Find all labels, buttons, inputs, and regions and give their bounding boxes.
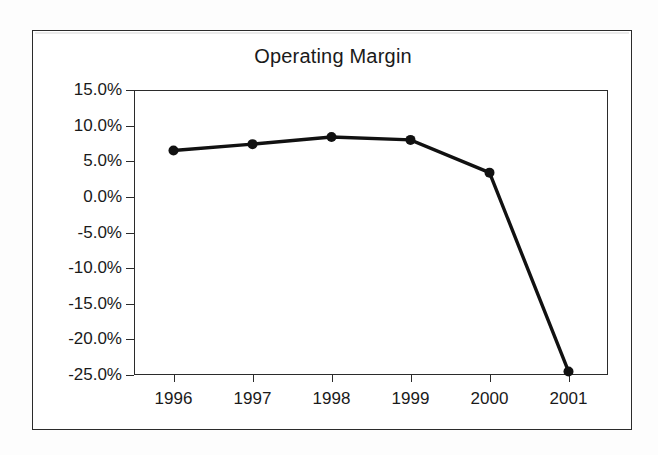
operating-margin-markers: 1996: 6.5%1997: 7.4%1998: 8.4%1999: 8.0%… [169, 132, 574, 376]
data-point-marker: 2001: -24.5% [564, 366, 574, 376]
y-axis-tick [126, 268, 134, 269]
y-axis-tick-label: 15.0% [27, 80, 122, 100]
data-point-marker: 1996: 6.5% [169, 146, 179, 156]
operating-margin-line [174, 137, 569, 371]
data-point-marker: 2000: 3.4% [485, 168, 495, 178]
y-axis-tick-label: -10.0% [27, 258, 122, 278]
x-axis-tick-label: 1999 [371, 389, 451, 409]
y-axis-tick [126, 126, 134, 127]
y-axis-tick-label: -20.0% [27, 329, 122, 349]
plot-area: 15.0%10.0%5.0%0.0%-5.0%-10.0%-15.0%-20.0… [134, 90, 608, 375]
y-axis-tick-label: -5.0% [27, 223, 122, 243]
x-axis-tick-label: 2000 [450, 389, 530, 409]
x-axis-tick-label: 1996 [134, 389, 214, 409]
y-axis-tick-label: 0.0% [27, 187, 122, 207]
y-axis-tick-label: 10.0% [27, 116, 122, 136]
scan-artifact [35, 32, 629, 34]
scanned-page: Operating Margin 15.0%10.0%5.0%0.0%-5.0%… [0, 0, 658, 455]
x-axis-tick-label: 1998 [292, 389, 372, 409]
data-point-marker: 1998: 8.4% [327, 132, 337, 142]
series-layer: 1996: 6.5%1997: 7.4%1998: 8.4%1999: 8.0%… [134, 90, 608, 375]
x-axis-tick [174, 375, 175, 382]
x-axis-tick [490, 375, 491, 382]
data-point-marker: 1999: 8.0% [406, 135, 416, 145]
y-axis-tick [126, 304, 134, 305]
y-axis-tick [126, 339, 134, 340]
y-axis-tick-label: -25.0% [27, 365, 122, 385]
y-axis-tick [126, 197, 134, 198]
y-axis-tick [126, 233, 134, 234]
y-axis-tick-label: -15.0% [27, 294, 122, 314]
figure-frame: Operating Margin 15.0%10.0%5.0%0.0%-5.0%… [32, 30, 632, 430]
y-axis-tick [126, 161, 134, 162]
chart-title: Operating Margin [33, 45, 633, 68]
x-axis-tick [253, 375, 254, 382]
data-point-marker: 1997: 7.4% [248, 139, 258, 149]
x-axis-tick-label: 2001 [529, 389, 609, 409]
x-axis-tick-label: 1997 [213, 389, 293, 409]
x-axis-tick [332, 375, 333, 382]
x-axis-tick [411, 375, 412, 382]
y-axis-tick-label: 5.0% [27, 151, 122, 171]
y-axis-tick [126, 90, 134, 91]
y-axis-tick [126, 375, 134, 376]
